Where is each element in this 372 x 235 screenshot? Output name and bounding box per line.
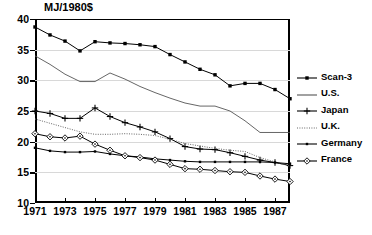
data-point [182,165,188,171]
legend-item-u-s-[interactable]: U.S. [296,85,372,102]
series-u-s- [35,56,290,133]
data-point [167,161,173,167]
legend-marker-icon [296,153,318,165]
data-point [77,115,83,121]
legend-item-japan[interactable]: Japan [296,101,372,118]
data-point [272,176,278,182]
data-point [242,169,248,175]
series-layer [35,19,290,203]
data-point [274,161,276,163]
data-point [213,73,216,76]
chart-legend: Scan-3U.S.JapanU.K.GermanyFrance [296,68,372,167]
data-point [152,157,158,163]
data-point [288,97,291,100]
y-tick-label-30: 30 [0,75,29,86]
legend-item-france[interactable]: France [296,151,372,168]
data-point [229,161,231,163]
data-point [212,167,218,173]
y-tick-label-35: 35 [0,45,29,56]
data-point [182,143,188,149]
data-point [47,110,53,116]
data-point [227,169,233,175]
data-point [108,41,111,44]
data-point [123,42,126,45]
series-france [32,130,293,184]
y-tick-label-20: 20 [0,137,29,148]
data-point [32,130,38,136]
data-point [228,84,231,87]
data-point [244,161,246,163]
data-point [257,173,263,179]
data-point [34,147,36,149]
data-point [122,153,128,159]
data-point [287,178,293,184]
data-point [199,161,201,163]
series-line [35,148,290,164]
data-point [243,82,246,85]
data-point [259,161,261,163]
legend-item-u-k-[interactable]: U.K. [296,118,372,135]
data-point [168,53,171,56]
data-point [137,154,143,160]
x-tick-label-1987: 1987 [255,206,295,217]
data-point [93,40,96,43]
legend-label: U.S. [318,87,339,98]
legend-item-scan-3[interactable]: Scan-3 [296,68,372,85]
legend-marker-icon [296,70,318,82]
legend-marker-icon [296,120,318,132]
series-line [35,56,290,133]
data-point [198,68,201,71]
legend-label: Germany [318,137,362,148]
data-point [78,49,81,52]
data-point [63,39,66,42]
data-point [152,129,158,135]
legend-marker-icon [296,136,318,148]
legend-marker-icon [296,103,318,115]
data-point [47,134,53,140]
data-point [107,113,113,119]
data-point [77,133,83,139]
data-point [92,141,98,147]
chart-root: MJ/1980$ 40353025201510 1971197319751977… [0,0,372,235]
data-point [62,135,68,141]
data-point [153,45,156,48]
data-point [48,33,51,36]
plot-area: 40353025201510 1971197319751977197919811… [35,19,290,203]
y-axis-title: MJ/1980$ [44,1,93,13]
data-point [258,82,261,85]
data-point [289,163,291,165]
data-point [79,151,81,153]
series-line [35,27,290,99]
data-point [273,88,276,91]
legend-label: Scan-3 [318,71,352,82]
legend-label: Japan [318,104,348,115]
data-point [49,150,51,152]
legend-marker-icon [296,87,318,99]
data-point [64,151,66,153]
legend-label: U.K. [318,120,340,131]
data-point [94,150,96,152]
data-point [242,153,248,159]
data-point [212,146,218,152]
data-point [227,150,233,156]
data-point [183,60,186,63]
legend-item-germany[interactable]: Germany [296,134,372,151]
data-point [92,105,98,111]
legend-label: France [318,153,352,164]
data-point [137,124,143,130]
data-point [33,25,36,28]
data-point [107,147,113,153]
data-point [197,166,203,172]
data-point [122,119,128,125]
data-point [138,43,141,46]
series-scan-3 [33,25,291,100]
y-tick-label-40: 40 [0,14,29,25]
y-tick-label-25: 25 [0,106,29,117]
y-tick-label-15: 15 [0,167,29,178]
data-point [184,160,186,162]
data-point [62,115,68,121]
data-point [214,161,216,163]
data-point [32,108,38,114]
